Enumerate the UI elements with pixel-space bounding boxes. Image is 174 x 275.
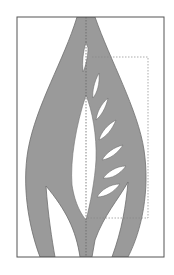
diagram-canvas (0, 0, 174, 275)
leaf-template-figure (0, 0, 174, 275)
